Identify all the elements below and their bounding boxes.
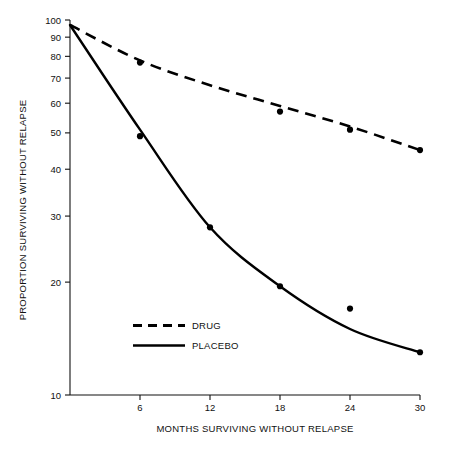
survival-curve-chart: 102030405060708090100 612182430 MONTHS S…: [0, 0, 450, 459]
y-tick-label: 60: [50, 98, 61, 109]
y-tick-label: 40: [50, 164, 61, 175]
x-tick-label: 18: [275, 402, 286, 413]
y-tick-label: 80: [50, 51, 61, 62]
chart-background: [0, 0, 450, 459]
y-tick-label: 90: [50, 32, 61, 43]
y-tick-label: 10: [50, 390, 61, 401]
chart-figure: 102030405060708090100 612182430 MONTHS S…: [0, 0, 450, 459]
y-tick-label: 50: [50, 127, 61, 138]
placebo-data-point: [347, 305, 353, 311]
drug-data-point: [347, 127, 353, 133]
drug-data-point: [137, 59, 143, 65]
y-axis-title: PROPORTION SURVIVING WITHOUT RELAPSE: [17, 100, 28, 321]
x-axis-title: MONTHS SURVIVING WITHOUT RELAPSE: [156, 423, 353, 434]
y-tick-label: 20: [50, 277, 61, 288]
x-tick-label: 6: [137, 402, 142, 413]
legend-label-placebo: PLACEBO: [192, 340, 239, 351]
placebo-data-point: [277, 283, 283, 289]
y-tick-label: 70: [50, 73, 61, 84]
x-tick-label: 24: [345, 402, 356, 413]
y-tick-label: 100: [45, 15, 61, 26]
drug-data-point: [277, 108, 283, 114]
drug-data-point: [417, 147, 423, 153]
placebo-data-point: [137, 133, 143, 139]
x-tick-label: 30: [415, 402, 426, 413]
placebo-data-point: [207, 224, 213, 230]
x-tick-label: 12: [205, 402, 216, 413]
placebo-data-point: [417, 349, 423, 355]
y-tick-label: 30: [50, 211, 61, 222]
legend-label-drug: DRUG: [192, 320, 221, 331]
